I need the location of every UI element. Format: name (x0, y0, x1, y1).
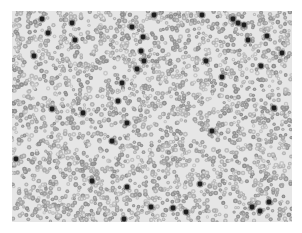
image-frame (0, 0, 302, 233)
blood-smear-micrograph (12, 11, 292, 222)
cell-field-canvas (12, 11, 292, 222)
